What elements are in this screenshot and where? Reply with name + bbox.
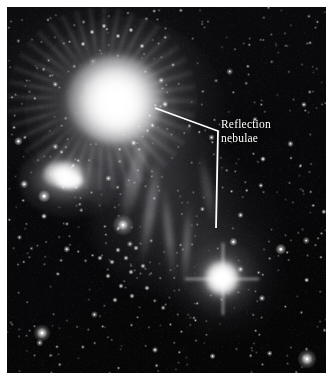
photographic-plate (7, 7, 326, 373)
secondary-bright-patch-knot (57, 173, 83, 189)
illuminating-star-core (205, 261, 239, 295)
astronomy-figure: Reflectionnebulae (0, 0, 332, 384)
main-reflection-nebula-core (67, 55, 163, 143)
